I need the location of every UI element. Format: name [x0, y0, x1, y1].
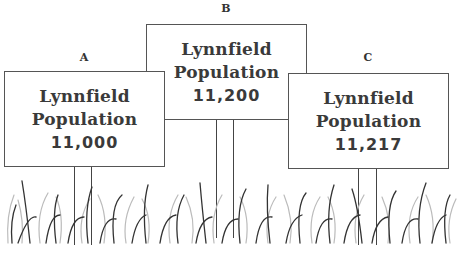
sign-a-line1: Lynnfield	[39, 85, 130, 108]
sign-b: Lynnfield Population 11,200	[146, 24, 307, 120]
sign-a-line2: Population	[32, 108, 137, 131]
sign-c-value: 11,217	[335, 133, 403, 156]
sign-a-label: A	[74, 51, 94, 64]
sign-b-line2: Population	[174, 61, 279, 84]
sign-c-line1: Lynnfield	[323, 87, 414, 110]
sign-b-label: B	[216, 2, 236, 15]
sign-c-line2: Population	[316, 110, 421, 133]
sign-a: Lynnfield Population 11,000	[4, 71, 165, 167]
sign-c-label: C	[358, 51, 378, 64]
sign-b-value: 11,200	[193, 84, 261, 107]
sign-c: Lynnfield Population 11,217	[288, 73, 449, 169]
sign-b-line1: Lynnfield	[181, 38, 272, 61]
grass-illustration	[0, 175, 458, 245]
sign-a-value: 11,000	[51, 131, 119, 154]
